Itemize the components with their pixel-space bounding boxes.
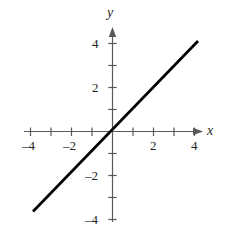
graph-canvas: [0, 0, 225, 234]
y-axis-group: [109, 27, 116, 222]
x-axis-label: x: [207, 124, 213, 138]
x-tick-label--4: –4: [22, 139, 35, 152]
y-tick-label--2: –2: [85, 169, 98, 182]
coordinate-plane-figure: –4 –2 2 4 4 2 –2 –4 x y: [0, 0, 225, 234]
y-axis-arrowhead: [109, 27, 116, 37]
y-tick-label--4: –4: [85, 213, 98, 226]
y-tick-label-4: 4: [92, 37, 99, 50]
line-series-y-equals-x: [33, 41, 198, 212]
y-tick-label-2: 2: [92, 81, 99, 94]
x-tick-label-2: 2: [150, 139, 157, 152]
x-tick-label--2: –2: [63, 139, 76, 152]
x-tick-label-4: 4: [191, 139, 198, 152]
y-axis-label: y: [107, 6, 113, 20]
